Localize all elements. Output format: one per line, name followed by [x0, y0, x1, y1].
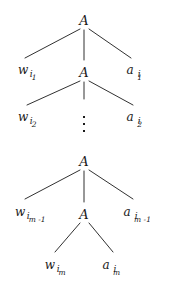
- leaf-base-symbol: a: [127, 110, 134, 124]
- leaf-base-symbol: w: [18, 63, 28, 77]
- tree-edge: [25, 29, 80, 58]
- vertical-ellipsis: [83, 116, 85, 132]
- leaf-subscript-nested: 1: [32, 73, 37, 82]
- tree-leaf-terminal: wi2: [18, 111, 36, 123]
- tree-leaf-terminal: ai2: [127, 111, 142, 123]
- leaf-subscript-nested: m -1: [29, 215, 46, 224]
- tree-edge: [89, 170, 133, 199]
- tree-edge: [27, 81, 80, 105]
- tree-leaf-terminal: wim: [45, 259, 65, 271]
- leaf-base-symbol: w: [18, 110, 28, 124]
- tree-node-nonterminal: A: [79, 14, 88, 27]
- leaf-subscript-nested: 1: [137, 73, 142, 82]
- leaf-base-symbol: w: [45, 258, 55, 272]
- ellipsis-dot: [83, 130, 85, 132]
- ellipsis-dot: [83, 116, 85, 118]
- leaf-base-symbol: w: [15, 205, 25, 219]
- tree-leaf-terminal: ai1: [127, 64, 142, 76]
- tree-edge: [55, 223, 80, 252]
- tree-node-nonterminal: A: [79, 208, 88, 221]
- tree-edge: [89, 81, 133, 105]
- leaf-subscript-nested: m: [113, 268, 120, 277]
- leaf-subscript-nested: 2: [137, 120, 142, 129]
- leaf-base-symbol: a: [124, 205, 131, 219]
- tree-edges: [0, 0, 170, 295]
- tree-edge: [89, 223, 113, 252]
- leaf-base-symbol: a: [127, 63, 134, 77]
- tree-edge: [25, 170, 80, 199]
- tree-leaf-terminal: aim: [102, 259, 119, 271]
- tree-node-nonterminal: A: [79, 155, 88, 168]
- leaf-subscript-nested: 2: [32, 120, 37, 129]
- ellipsis-dot: [83, 123, 85, 125]
- tree-leaf-terminal: aim -1: [124, 206, 151, 218]
- leaf-subscript-nested: m: [59, 268, 66, 277]
- tree-node-nonterminal: A: [79, 66, 88, 79]
- tree-leaf-terminal: wim -1: [15, 206, 45, 218]
- parse-tree-figure: AAAAwi1ai1wi2ai2wim -1aim -1wimaim: [0, 0, 170, 295]
- leaf-subscript-nested: m -1: [134, 215, 151, 224]
- tree-edge: [89, 29, 131, 58]
- leaf-base-symbol: a: [102, 258, 109, 272]
- tree-leaf-terminal: wi1: [18, 64, 36, 76]
